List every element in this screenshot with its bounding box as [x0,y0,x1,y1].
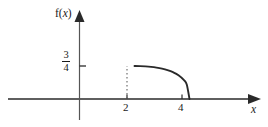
y-tick-label-three-quarters: 3 4 [59,50,73,73]
x-tick-label-4: 4 [178,102,184,113]
function-graph-figure: f(x) x 3 4 2 4 [0,0,268,127]
x-axis-label: x [251,104,256,116]
y-axis-arrowhead [75,10,85,22]
function-curve-segment [135,66,190,99]
y-axis-label-suffix: ) [68,7,72,19]
y-axis-label-prefix: f( [55,7,63,19]
fraction-three-quarters: 3 4 [62,50,69,73]
fraction-numerator: 3 [62,50,69,61]
plot-canvas [0,0,268,127]
x-tick-label-2: 2 [123,102,129,113]
fraction-denominator: 4 [62,63,69,74]
y-axis-label: f(x) [55,8,72,20]
